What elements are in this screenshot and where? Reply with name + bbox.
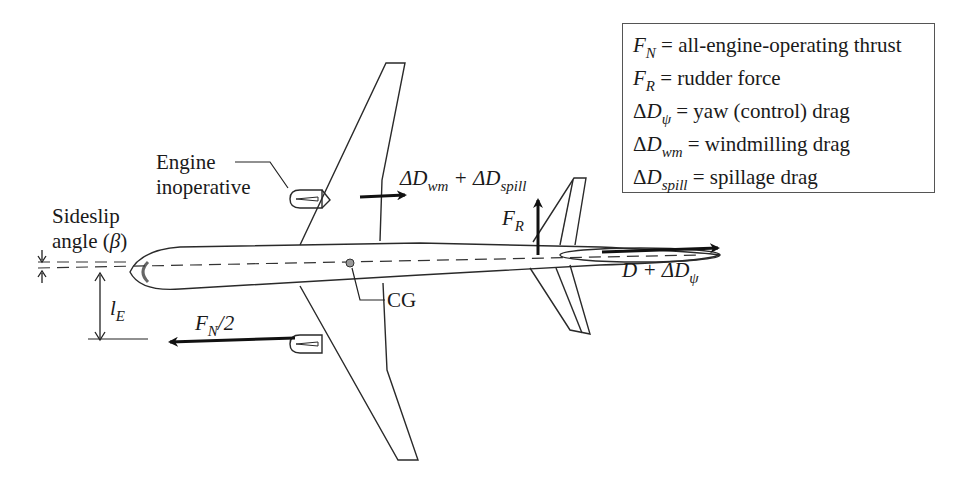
legend-item-windmill-drag: ΔDwm = windmilling drag [633,129,924,162]
le-symbol: l [110,296,116,320]
legend-item-fn: FN = all-engine-operating thrust [633,30,924,63]
legend-desc: = rudder force [660,66,780,90]
fr-label: FR [502,208,524,229]
beta-symbol: β [110,229,120,253]
legend-subscript: N [646,45,656,61]
legend-symbol: D [647,99,662,123]
legend-symbol: D [647,165,662,189]
windmill-arrow [360,195,405,197]
wm-subscript: wm [428,178,449,194]
cockpit-windows [143,262,148,282]
legend-item-spill-drag: ΔDspill = spillage drag [633,162,924,195]
sideslip-paren: ) [120,229,127,253]
upper-engine [290,190,322,208]
drag-subscript: ψ [689,270,698,286]
fn2-subscript: N [208,323,218,339]
spill-symbol: + ΔD [448,166,500,190]
fn2-label: FN/2 [195,313,234,334]
cg-label: CG [387,290,416,311]
wm-symbol: ΔD [400,166,428,190]
engine-label-line1: Engine [156,152,250,173]
legend-item-yaw-drag: ΔDψ = yaw (control) drag [633,96,924,129]
fn2-arrow [170,338,295,342]
legend-subscript: wm [662,144,683,160]
spill-subscript: spill [501,178,527,194]
legend-subscript: R [646,78,655,94]
lower-h-tail [530,265,590,334]
legend-desc: = spillage drag [693,165,818,189]
legend-item-fr: FR = rudder force [633,63,924,96]
fr-symbol: F [502,206,515,230]
fr-subscript: R [515,218,524,234]
le-label: lE [110,298,125,319]
legend-subscript: spill [662,177,688,193]
sideslip-label: Sideslip angle (β) [52,206,127,252]
engine-label-line2: inoperative [156,177,250,198]
legend-symbol: F [633,66,646,90]
drag-symbol: D + ΔD [622,258,689,282]
legend-symbol: F [633,33,646,57]
legend-desc: = yaw (control) drag [676,99,849,123]
fn2-divisor: /2 [218,311,234,335]
fn2-symbol: F [195,311,208,335]
upper-h-tail [533,178,586,245]
upper-wing [300,63,405,245]
legend-symbol: D [647,132,662,156]
sideslip-text: angle ( [52,229,110,253]
legend-subscript: ψ [662,111,671,127]
legend-delta: Δ [633,132,647,156]
legend-desc: = all-engine-operating thrust [661,33,901,57]
legend-delta: Δ [633,99,647,123]
windmill-spill-label: ΔDwm + ΔDspill [400,168,526,189]
cg-marker [346,259,354,267]
legend-desc: = windmilling drag [688,132,850,156]
le-subscript: E [116,308,125,324]
sideslip-line1: Sideslip [52,206,127,227]
legend-delta: Δ [633,165,647,189]
engine-inoperative-label: Engine inoperative [156,152,250,198]
drag-label: D + ΔDψ [622,260,699,281]
legend-box: FN = all-engine-operating thrust FR = ru… [622,23,935,193]
